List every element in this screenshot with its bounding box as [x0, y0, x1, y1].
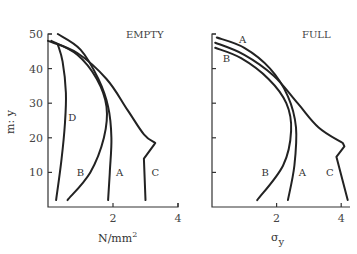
right-axes [212, 34, 350, 207]
left-y-axis-label: m: y [4, 109, 17, 134]
curve-b [215, 48, 291, 200]
y-tick-label: 20 [29, 132, 43, 145]
curve-label-b: B [262, 167, 269, 178]
y-tick-label: 10 [29, 166, 43, 179]
x-label-subscript: y [278, 236, 285, 247]
x-label-base: N/mm [98, 232, 133, 245]
curve-d [56, 44, 66, 200]
x-tick-label: 4 [175, 212, 182, 225]
curve-label-d: D [68, 112, 76, 123]
left-x-ticks: 24 [110, 203, 182, 225]
right-curves: ABCBA [215, 34, 348, 200]
left-panel: 1020304050 24 EMPTY m: y N/mm2 DBAC [4, 28, 182, 245]
x-tick-label: 2 [110, 212, 117, 225]
y-tick-label: 40 [29, 63, 43, 76]
left-x-axis-label: N/mm2 [98, 230, 137, 245]
right-x-ticks: 24 [273, 203, 345, 225]
right-x-axis-label: σy [271, 231, 285, 247]
x-tick-label: 2 [273, 212, 280, 225]
y-tick-label: 50 [29, 28, 43, 41]
left-curves: DBAC [48, 34, 159, 200]
chart-figure: 1020304050 24 EMPTY m: y N/mm2 DBAC 24 F… [0, 0, 357, 254]
left-panel-title: EMPTY [126, 29, 164, 40]
curve-label-c: C [326, 167, 334, 178]
x-tick-label: 4 [338, 212, 345, 225]
right-panel-title: FULL [302, 29, 331, 40]
curve-label-c: C [151, 167, 159, 178]
y-tick-label: 30 [29, 97, 43, 110]
curve-label-b: B [223, 53, 230, 64]
curve-label-a: A [298, 167, 307, 178]
curve-label-a: A [238, 34, 247, 45]
right-panel: 24 FULL σy ABCBA [212, 29, 350, 247]
x-label-superscript: 2 [132, 230, 137, 239]
curve-label-b: B [77, 167, 84, 178]
curve-label-a: A [115, 167, 124, 178]
